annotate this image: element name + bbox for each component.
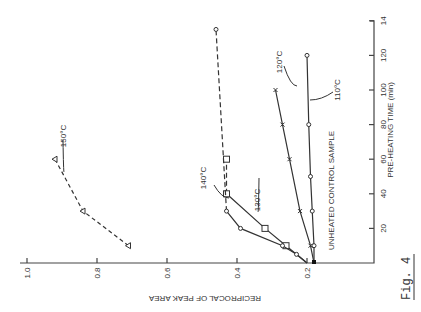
leader-line — [310, 92, 333, 100]
x-tick-label: 20 — [379, 223, 388, 232]
circle-marker — [309, 175, 313, 179]
triangle-marker — [52, 156, 57, 162]
circle-marker — [281, 244, 285, 248]
y-axis-label: RECIPROCAL OF PEAK AREA — [148, 294, 261, 303]
circle-marker — [295, 252, 299, 256]
circle-marker — [239, 226, 243, 230]
axis-lines — [20, 21, 374, 263]
square-marker — [224, 156, 230, 162]
control-sample-label: UNHEATED CONTROL SAMPLE — [327, 131, 336, 250]
series-label: 150°C — [59, 125, 68, 148]
axes — [20, 21, 374, 263]
series-label: 110°C — [333, 79, 342, 101]
y-tick-label: 0.6 — [163, 267, 172, 279]
y-tick-label: 1.0 — [23, 267, 32, 279]
circle-marker — [307, 123, 311, 127]
series-130c — [224, 156, 308, 263]
series-140c — [214, 27, 307, 263]
y-tick-label: 0.4 — [233, 267, 242, 279]
x-tick-label: 14 — [379, 16, 388, 25]
control-sample-marker — [312, 260, 316, 264]
square-marker — [224, 191, 230, 197]
circle-marker — [214, 27, 218, 31]
figure-label: Fig. 4 — [400, 254, 414, 300]
circle-marker — [310, 209, 314, 213]
series-label: 140°C — [199, 167, 208, 190]
y-tick-label: 0.2 — [303, 267, 312, 279]
leader-line — [284, 66, 297, 86]
circle-marker — [225, 209, 229, 213]
circle-marker — [305, 53, 309, 57]
x-tick-label: 40 — [379, 189, 388, 198]
square-marker — [262, 225, 268, 231]
chart: 20406080100120140.20.40.60.81.0 110°C120… — [0, 0, 421, 312]
figure-label-text: Fig. 4 — [400, 257, 414, 300]
series-label: 120°C — [275, 51, 284, 74]
series-labels: 110°C120°C130°C140°C150°C — [59, 51, 342, 212]
x-tick-label: 120 — [379, 48, 388, 62]
series-label: 130°C — [253, 189, 262, 212]
x-axis-label: PRE-HEATING TIME (min) — [386, 82, 395, 178]
y-tick-label: 0.8 — [93, 267, 102, 279]
